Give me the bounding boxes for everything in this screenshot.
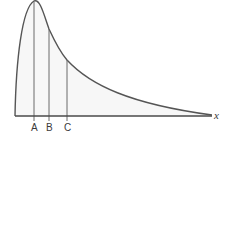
- marker-label-c: C: [64, 123, 71, 133]
- x-axis-label: x: [214, 110, 219, 121]
- marker-label-a: A: [31, 123, 38, 133]
- marker-label-b: B: [46, 123, 53, 133]
